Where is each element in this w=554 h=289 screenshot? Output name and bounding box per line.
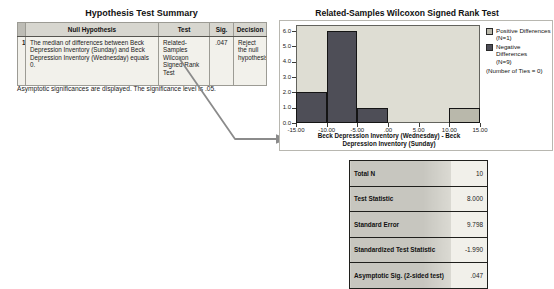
stats-row-label: Total N [350, 161, 452, 187]
x-axis-tick-label: 5.00 [404, 127, 434, 133]
hypothesis-table-header-row: Null Hypothesis Test Sig. Decision [18, 23, 267, 37]
row-number-header [18, 23, 26, 37]
sig-cell: .047 [210, 37, 234, 86]
table-footnote: Asymptotic significances are displayed. … [17, 85, 287, 92]
stats-row-label: Standard Error [350, 212, 452, 238]
x-axis-tick-mark [480, 123, 481, 127]
x-axis-tick-label: -5.00 [342, 127, 372, 133]
test-cell: Related-Samples Wilcoxon Signed Rank Tes… [159, 37, 210, 86]
x-axis-tick-mark [327, 123, 328, 127]
decision-cell: Reject the null hypothesis. [234, 37, 267, 86]
y-axis-tick-label: 3.0 [272, 74, 291, 80]
column-header-test: Test [159, 23, 210, 37]
x-axis-tick-mark [357, 123, 358, 127]
stats-row-label: Standardized Test Statistic [350, 237, 452, 263]
stats-row-value: 10 [451, 161, 488, 187]
stats-table-row: Standard Error9.798 [350, 212, 488, 238]
legend-label: Negative Differences(N=9) [496, 43, 552, 64]
stats-table-row: Test Statistic8.000 [350, 186, 488, 212]
column-header-sig: Sig. [210, 23, 234, 37]
stats-row-value: -1.990 [451, 237, 488, 263]
statistics-table: Total N10Test Statistic8.000Standard Err… [349, 160, 488, 289]
y-axis-tick-label: 0.0 [272, 120, 291, 126]
negative-differences-bar [327, 31, 358, 123]
y-axis-tick-label: 2.0 [272, 89, 291, 95]
legend-swatch-icon [486, 44, 493, 51]
statistics-table-body: Total N10Test Statistic8.000Standard Err… [350, 161, 488, 289]
x-axis-tick-label: -15.00 [281, 127, 311, 133]
x-axis-tick-label: 10.00 [434, 127, 464, 133]
x-axis-tick-mark [296, 123, 297, 127]
hypothesis-table-title: Hypothesis Test Summary [17, 8, 266, 18]
legend-swatch-icon [486, 28, 493, 35]
x-axis-tick-mark [388, 123, 389, 127]
y-axis-tick-mark [292, 46, 296, 47]
stats-row-value: 9.798 [451, 212, 488, 238]
positive-differences-bar [449, 108, 480, 123]
stats-row-label: Test Statistic [350, 186, 452, 212]
y-axis-tick-mark [292, 77, 296, 78]
legend-entry: Negative Differences(N=9) [486, 43, 552, 64]
y-axis-tick-label: 5.0 [272, 43, 291, 49]
stats-row-label: Asymptotic Sig. (2-sided test) [350, 263, 452, 289]
stats-row-value: .047 [451, 263, 488, 289]
negative-differences-bar [357, 108, 388, 123]
legend-label: Positive Differences(N=1) [496, 27, 551, 41]
hypothesis-table-row: 1 The median of differences between Beck… [18, 37, 267, 86]
y-axis-tick-mark [292, 62, 296, 63]
chart-legend: Positive Differences(N=1)Negative Differ… [486, 27, 552, 74]
stats-row-value: 8.000 [451, 186, 488, 212]
y-axis-tick-mark [292, 31, 296, 32]
legend-entry: Positive Differences(N=1) [486, 27, 552, 41]
negative-differences-bar [296, 92, 327, 123]
spss-output-canvas: Hypothesis Test Summary Null Hypothesis … [0, 0, 554, 289]
stats-table-row: Total N10 [350, 161, 488, 187]
y-axis-tick-label: 4.0 [272, 58, 291, 64]
hypothesis-test-summary-table: Null Hypothesis Test Sig. Decision 1 The… [17, 22, 267, 86]
y-axis-tick-label: 1.0 [272, 104, 291, 110]
stats-table-row: Standardized Test Statistic-1.990 [350, 237, 488, 263]
x-axis-tick-label: 15.00 [465, 127, 495, 133]
row-number-cell: 1 [18, 37, 26, 86]
y-axis-tick-label: 6.0 [272, 28, 291, 34]
column-header-decision: Decision [234, 23, 267, 37]
legend-ties-note: (Number of Ties = 0) [486, 67, 552, 74]
x-axis-tick-label: .00 [373, 127, 403, 133]
chart-title: Related-Samples Wilcoxon Signed Rank Tes… [278, 8, 536, 18]
x-axis-tick-label: -10.00 [312, 127, 342, 133]
column-header-null-hypothesis: Null Hypothesis [26, 23, 159, 37]
x-axis-tick-mark [419, 123, 420, 127]
stats-table-row: Asymptotic Sig. (2-sided test).047 [350, 263, 488, 289]
x-axis-tick-mark [449, 123, 450, 127]
x-axis-title: Beck Depression Inventory (Wednesday) - … [301, 132, 477, 148]
null-hypothesis-cell: The median of differences between Beck D… [26, 37, 159, 86]
